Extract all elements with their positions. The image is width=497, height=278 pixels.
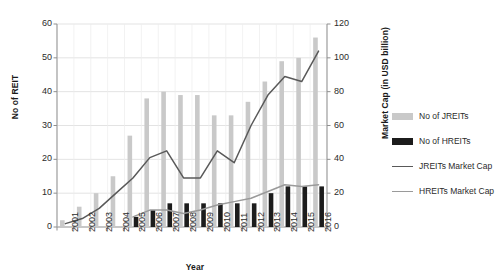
y-axis-left-tick: 60	[14, 18, 52, 28]
y-axis-left-tick: 50	[14, 52, 52, 62]
x-axis-tick: 2012	[256, 212, 266, 232]
x-axis-tick: 2007	[171, 212, 181, 232]
x-axis-tick: 2015	[306, 212, 316, 232]
legend-item-label: No of HREITs	[419, 136, 471, 146]
legend-line-swatch-icon	[392, 166, 413, 167]
x-axis-tick: 2009	[205, 212, 215, 232]
legend-bar-swatch-icon	[392, 138, 413, 145]
y-axis-left-tick: 0	[14, 221, 52, 231]
y-axis-left-tick: 20	[14, 153, 52, 163]
x-axis-tick: 2005	[137, 212, 147, 232]
y-axis-right-tick: 60	[334, 120, 364, 130]
reit-chart: 0102030405060 020406080100120 2001200220…	[0, 0, 497, 278]
legend-line-swatch-icon	[392, 191, 413, 192]
x-axis-title: Year	[140, 262, 250, 272]
y-axis-right-tick: 100	[334, 52, 364, 62]
y-axis-right-title: Market Cap (in USD billion)	[380, 23, 390, 143]
y-axis-right-tick: 20	[334, 187, 364, 197]
x-axis-tick: 2004	[121, 212, 131, 232]
legend-item[interactable]: JREITs Market Cap	[392, 161, 492, 171]
x-axis-tick: 2001	[70, 212, 80, 232]
legend-bar-swatch-icon	[392, 113, 413, 120]
y-axis-right-tick: 80	[334, 86, 364, 96]
legend-item-label: No of JREITs	[419, 111, 469, 121]
x-axis-tick: 2011	[239, 213, 249, 232]
x-axis-tick: 2010	[222, 212, 232, 232]
legend-item-label: HREITs Market Cap	[419, 186, 494, 196]
x-axis-tick: 2002	[87, 212, 97, 232]
x-axis-tick: 2006	[154, 212, 164, 232]
legend-item[interactable]: No of JREITs	[392, 111, 469, 121]
x-axis-tick: 2003	[104, 212, 114, 232]
y-axis-right-tick: 0	[334, 221, 364, 231]
y-axis-left-title: No of REIT	[10, 62, 20, 132]
y-axis-right-tick: 40	[334, 153, 364, 163]
x-axis-tick: 2014	[289, 212, 299, 232]
x-axis-tick: 2016	[323, 212, 333, 232]
legend-item[interactable]: HREITs Market Cap	[392, 186, 494, 196]
legend-item-label: JREITs Market Cap	[419, 161, 492, 171]
legend-item[interactable]: No of HREITs	[392, 136, 471, 146]
x-axis-tick: 2008	[188, 212, 198, 232]
x-axis-tick: 2013	[272, 212, 282, 232]
y-axis-right-tick: 120	[334, 18, 364, 28]
y-axis-left-tick: 10	[14, 187, 52, 197]
